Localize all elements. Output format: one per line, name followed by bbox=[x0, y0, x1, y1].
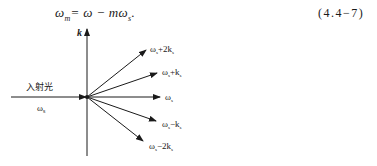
beam-label-minus-2k: ωs−2ks bbox=[149, 141, 173, 152]
beam-label-plus-k: ωs+ks bbox=[162, 67, 181, 78]
diffraction-diagram: k 入射光 ωs ωs+2ks ωs+ks ωs ωs−ks ωs−2ks bbox=[0, 0, 377, 166]
incident-frequency-label: ωs bbox=[37, 103, 46, 114]
beam-minus-2k bbox=[87, 97, 143, 141]
beam-label-plus-2k: ωs+2ks bbox=[150, 44, 174, 55]
k-axis-label: k bbox=[77, 27, 82, 38]
beam-label-zero-order: ωs bbox=[165, 92, 173, 103]
beam-plus-k bbox=[87, 73, 157, 97]
beam-label-minus-k: ωs−ks bbox=[162, 119, 181, 130]
incident-light-label: 入射光 bbox=[26, 81, 53, 92]
beam-minus-k bbox=[87, 97, 156, 121]
beam-plus-2k bbox=[87, 50, 146, 97]
